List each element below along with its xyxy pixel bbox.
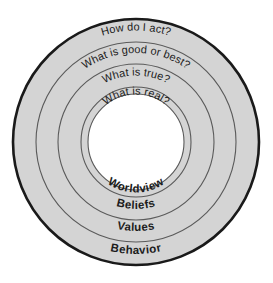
- label-values: Values: [116, 219, 155, 233]
- diagram-canvas: How do I act? What is good or best? What…: [0, 0, 273, 283]
- core-circle: [88, 94, 184, 190]
- worldview-concentric-diagram: How do I act? What is good or best? What…: [0, 0, 273, 283]
